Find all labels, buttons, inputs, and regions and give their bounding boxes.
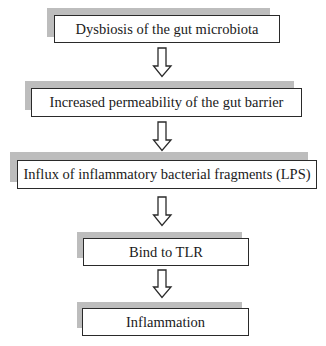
down-arrow-icon (152, 269, 173, 299)
node-inflammation: Inflammation (82, 308, 249, 336)
node-influx-lps: Influx of inflammatory bacterial fragmen… (17, 160, 317, 189)
node-label: Bind to TLR (129, 244, 203, 261)
node-dysbiosis: Dysbiosis of the gut microbiota (54, 15, 280, 43)
node-label: Dysbiosis of the gut microbiota (76, 21, 259, 38)
node-increased-permeability: Increased permeability of the gut barrie… (31, 88, 302, 117)
node-label: Influx of inflammatory bacterial fragmen… (23, 166, 310, 183)
node-label: Inflammation (126, 314, 205, 331)
node-bind-to-tlr: Bind to TLR (83, 238, 249, 266)
down-arrow-icon (152, 196, 173, 227)
node-label: Increased permeability of the gut barrie… (50, 94, 284, 111)
down-arrow-icon (152, 121, 173, 152)
down-arrow-icon (152, 47, 173, 78)
